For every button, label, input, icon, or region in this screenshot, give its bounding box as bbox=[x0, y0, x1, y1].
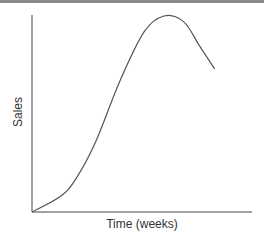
x-axis-label: Time (weeks) bbox=[32, 217, 252, 231]
y-axis-label: Sales bbox=[11, 97, 25, 127]
sales-curve bbox=[32, 16, 215, 212]
chart-canvas bbox=[0, 0, 264, 239]
